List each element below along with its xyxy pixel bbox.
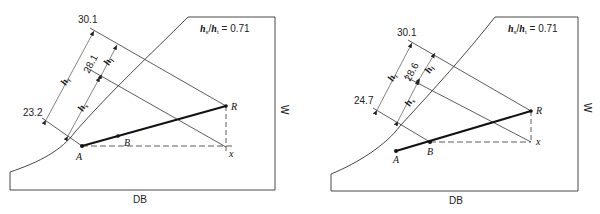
label-ht: ht: [58, 75, 72, 87]
label-A: A: [75, 151, 83, 162]
enthalpy-line-bottom: [42, 118, 82, 146]
label-A: A: [392, 154, 400, 165]
process-line-A-R: [82, 106, 226, 146]
enthalpy-bottom-value: 23.2: [23, 107, 43, 118]
x-axis-label: DB: [449, 195, 463, 206]
label-B: B: [427, 146, 433, 157]
enthalpy-top-value: 30.1: [397, 27, 417, 38]
process-line-A-R: [396, 111, 531, 151]
label-hs: hs: [402, 95, 417, 108]
point-B: [428, 140, 432, 144]
point-A: [80, 144, 84, 148]
left-diagram: A B R x 30.1 23.2 28.1 ht hs hl hs/ht= 0…: [10, 14, 290, 205]
dimension-hl: [420, 53, 435, 78]
label-R: R: [230, 101, 237, 112]
label-hl: hl: [422, 63, 436, 75]
label-ht: ht: [385, 71, 399, 83]
label-B: B: [124, 137, 130, 148]
label-hl: hl: [101, 55, 115, 67]
enthalpy-middle-value: 28.1: [81, 52, 100, 75]
enthalpy-line-middle: [87, 68, 226, 147]
label-x: x: [535, 136, 541, 147]
enthalpy-line-bottom: [373, 108, 430, 142]
label-x: x: [228, 148, 234, 159]
enthalpy-middle-value: 28.6: [402, 60, 421, 83]
ratio-label: hs/ht= 0.71: [200, 23, 250, 35]
right-diagram: A B R x 30.1 24.7 28.6 ht hs hl hs/ht= 0…: [331, 17, 593, 206]
point-R: [529, 109, 533, 113]
y-axis-label: W: [279, 105, 290, 115]
psychrometric-diagrams: A B R x 30.1 23.2 28.1 ht hs hl hs/ht= 0…: [0, 0, 600, 214]
label-hs: hs: [75, 100, 90, 113]
point-B: [116, 134, 120, 138]
y-axis-label: W: [582, 103, 593, 113]
enthalpy-line-middle: [404, 76, 531, 142]
x-axis-label: DB: [133, 194, 147, 205]
enthalpy-line-top: [408, 40, 531, 111]
label-R: R: [535, 105, 542, 116]
ratio-label: hs/ht= 0.71: [508, 23, 558, 35]
point-R: [224, 104, 228, 108]
enthalpy-bottom-value: 24.7: [354, 95, 374, 106]
saturation-curve: [10, 17, 188, 172]
enthalpy-top-value: 30.1: [78, 14, 98, 25]
point-A: [394, 149, 398, 153]
